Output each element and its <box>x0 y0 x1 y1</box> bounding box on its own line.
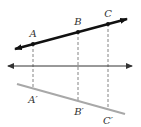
point-c <box>106 22 110 26</box>
point-b <box>76 30 80 34</box>
label-c: C <box>104 8 112 19</box>
label-a-prime: A′ <box>27 94 38 105</box>
label-b-prime: B′ <box>73 106 84 117</box>
label-c-prime: C′ <box>103 115 114 126</box>
label-b: B <box>73 16 81 27</box>
point-a <box>31 42 35 46</box>
label-a: A <box>28 28 36 39</box>
reflection-diagram: ABCA′B′C′ <box>0 0 141 127</box>
